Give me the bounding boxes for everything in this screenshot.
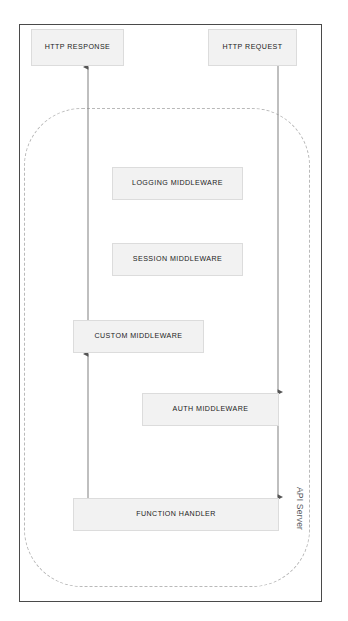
node-http-request-label: HTTP REQUEST xyxy=(222,43,282,52)
node-custom-middleware[interactable]: CUSTOM MIDDLEWARE xyxy=(73,320,204,353)
node-session-middleware[interactable]: SESSION MIDDLEWARE xyxy=(112,243,243,276)
api-server-label: API Server xyxy=(295,487,305,530)
node-function-handler[interactable]: FUNCTION HANDLER xyxy=(73,498,279,531)
node-logging-middleware[interactable]: LOGGING MIDDLEWARE xyxy=(112,167,243,200)
node-custom-middleware-label: CUSTOM MIDDLEWARE xyxy=(94,332,182,341)
node-http-response[interactable]: HTTP RESPONSE xyxy=(31,29,124,66)
node-session-middleware-label: SESSION MIDDLEWARE xyxy=(133,255,222,264)
node-http-response-label: HTTP RESPONSE xyxy=(45,43,111,52)
diagram-canvas: API Server HTTP RESPONSE HTTP REQUEST LO… xyxy=(0,0,348,621)
node-auth-middleware-label: AUTH MIDDLEWARE xyxy=(173,405,249,414)
node-logging-middleware-label: LOGGING MIDDLEWARE xyxy=(132,179,223,188)
node-http-request[interactable]: HTTP REQUEST xyxy=(208,29,297,66)
node-function-handler-label: FUNCTION HANDLER xyxy=(136,510,216,519)
node-auth-middleware[interactable]: AUTH MIDDLEWARE xyxy=(142,393,279,426)
